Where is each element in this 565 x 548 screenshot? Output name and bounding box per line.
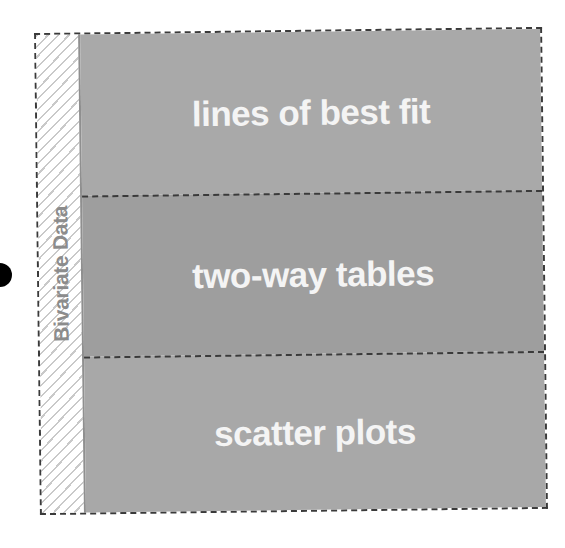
category-label: Bivariate Data (48, 206, 74, 342)
category-sidebar: Bivariate Data (36, 35, 86, 514)
topic-label: two-way tables (192, 253, 434, 296)
topic-section-two-way-tables: two-way tables (82, 190, 544, 357)
topic-label: lines of best fit (192, 91, 431, 134)
diagram-stage: Bivariate Data lines of best fit two-way… (0, 0, 565, 548)
diagram-frame: Bivariate Data lines of best fit two-way… (34, 27, 548, 515)
topic-stack: lines of best fit two-way tables scatter… (80, 29, 546, 513)
topic-section-lines-of-best-fit: lines of best fit (80, 29, 542, 196)
topic-label: scatter plots (214, 411, 416, 453)
topic-section-scatter-plots: scatter plots (84, 351, 546, 513)
